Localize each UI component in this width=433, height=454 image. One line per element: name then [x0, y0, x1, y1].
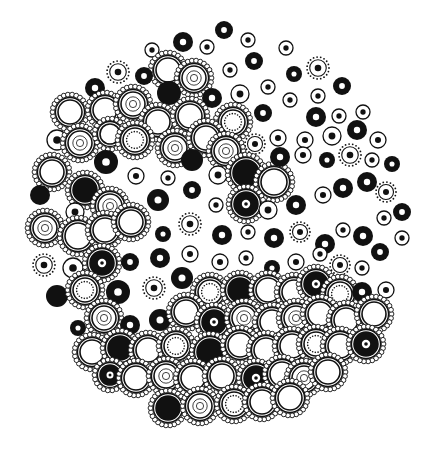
cell-donut — [333, 178, 353, 198]
cell-donut — [286, 195, 306, 215]
cell-beadeddonut — [226, 184, 266, 224]
cell-donut — [353, 226, 373, 246]
cell-ring — [270, 130, 286, 146]
cell-donut — [212, 225, 232, 245]
cell-ring — [355, 261, 369, 275]
cell-ring — [128, 168, 144, 184]
cell-ring — [295, 147, 311, 163]
cell-beadeddonut — [346, 324, 386, 364]
cell-donut — [147, 189, 169, 211]
cell-donut — [333, 77, 351, 95]
cell-ring — [370, 132, 386, 148]
cell-ring — [288, 254, 304, 270]
cell-donut — [121, 253, 139, 271]
cell-ring — [261, 80, 275, 94]
cell-donut — [393, 203, 411, 221]
cell-ring — [279, 41, 293, 55]
cell-donut — [215, 21, 233, 39]
cell-beaded — [308, 352, 348, 392]
cell-donut — [286, 66, 302, 82]
cell-ring — [200, 40, 214, 54]
cell-donut — [357, 172, 377, 192]
cell-beadedconc — [180, 386, 220, 426]
cell-donut — [347, 120, 367, 140]
cell-donut — [306, 107, 326, 127]
cell-donut — [264, 228, 284, 248]
cell-donut — [319, 152, 335, 168]
cell-donut — [245, 52, 263, 70]
cell-ring — [182, 246, 198, 262]
cell-ring — [212, 254, 228, 270]
cell-ring — [365, 153, 379, 167]
cell-solid — [46, 285, 68, 307]
cell-donut — [254, 104, 272, 122]
cell-ring — [161, 171, 175, 185]
cell-ring — [315, 187, 331, 203]
cell-ring — [209, 198, 223, 212]
cell-donut — [70, 320, 86, 336]
cell-ring — [336, 223, 350, 237]
cell-ring — [223, 63, 237, 77]
cell-ring — [377, 211, 391, 225]
cell-donut — [173, 32, 193, 52]
cell-ring — [231, 85, 249, 103]
cell-ring — [311, 89, 325, 103]
cell-ring — [241, 225, 255, 239]
cell-ring — [297, 132, 313, 148]
cell-beaded — [270, 378, 310, 418]
cell-donut — [94, 150, 118, 174]
cell-ring — [259, 201, 277, 219]
cell-ring — [241, 33, 255, 47]
cell-ring — [323, 127, 341, 145]
cell-donut — [150, 248, 170, 268]
cell-donut — [371, 243, 389, 261]
cell-donut — [155, 226, 171, 242]
cell-donut — [171, 267, 193, 289]
ink-circle-cluster-artwork — [0, 0, 433, 454]
cell-beaded — [111, 202, 151, 242]
cell-beadeddot — [115, 120, 155, 160]
cell-ring — [283, 93, 297, 107]
cell-ring — [239, 251, 253, 265]
cell-donut — [384, 156, 400, 172]
cell-ring — [332, 109, 346, 123]
cell-donut — [135, 67, 153, 85]
cell-solid — [30, 185, 50, 205]
cell-donut — [183, 181, 201, 199]
cell-ring — [395, 231, 409, 245]
cell-ring — [356, 105, 370, 119]
cell-solid — [181, 149, 203, 171]
cell-donut — [270, 147, 290, 167]
cell-ring — [313, 247, 327, 261]
cell-ring — [209, 166, 227, 184]
